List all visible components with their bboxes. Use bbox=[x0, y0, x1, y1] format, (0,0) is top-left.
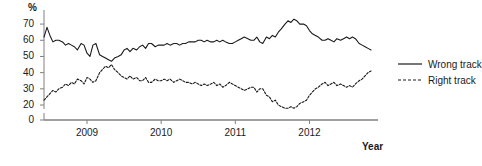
y-axis-tick-0: 0 bbox=[12, 114, 34, 125]
series-line-right-track bbox=[44, 65, 371, 109]
y-axis-tick-40: 40 bbox=[12, 67, 34, 78]
legend-swatch-solid-icon bbox=[398, 59, 422, 69]
x-axis-tick-2009: 2009 bbox=[67, 127, 107, 138]
chart-axes bbox=[40, 10, 378, 124]
x-axis-title: Year bbox=[362, 141, 383, 152]
x-axis-tick-2012: 2012 bbox=[289, 127, 329, 138]
y-axis-tick-60: 60 bbox=[12, 34, 34, 45]
y-axis-unit-label: % bbox=[28, 2, 37, 13]
legend-label-wrong-track: Wrong track bbox=[428, 59, 482, 70]
legend-swatch-dashed-icon bbox=[398, 75, 422, 85]
y-axis-tick-70: 70 bbox=[12, 18, 34, 29]
legend-label-right-track: Right track bbox=[428, 75, 476, 86]
y-axis-tick-30: 30 bbox=[12, 83, 34, 94]
y-axis-tick-50: 50 bbox=[12, 50, 34, 61]
series-line-wrong-track bbox=[44, 19, 371, 61]
x-axis-tick-2010: 2010 bbox=[141, 127, 181, 138]
chart-legend: Wrong track Right track bbox=[398, 57, 482, 89]
y-axis-tick-20: 20 bbox=[12, 99, 34, 110]
x-axis-tick-2011: 2011 bbox=[215, 127, 255, 138]
chart-series-layer bbox=[44, 19, 371, 108]
legend-item-wrong-track: Wrong track bbox=[398, 57, 482, 71]
legend-item-right-track: Right track bbox=[398, 73, 482, 87]
